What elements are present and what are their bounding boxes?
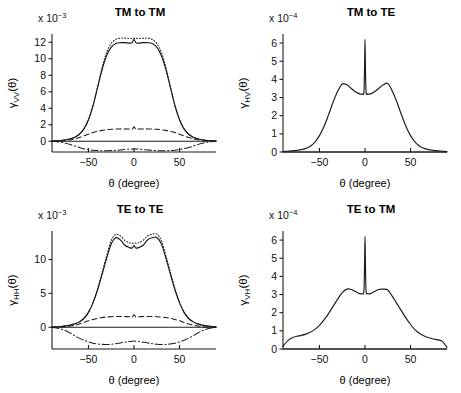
y-axis-title: γHV(θ) <box>237 77 252 108</box>
y-tick-label: 4 <box>271 270 277 282</box>
y-axis-exponent: x 10−4 <box>269 208 297 221</box>
y-tick-label: 0 <box>271 343 277 355</box>
x-tick-label: 50 <box>174 353 186 365</box>
y-axis-exponent: x 10−3 <box>38 11 66 24</box>
curve-total <box>52 237 216 327</box>
y-tick-label: 10 <box>34 52 46 64</box>
y-tick-label: 3 <box>271 288 277 300</box>
y-tick-label: 2 <box>40 118 46 130</box>
x-tick-label: 50 <box>405 353 417 365</box>
y-tick-label: 0 <box>40 135 46 147</box>
x-tick-label: −50 <box>311 353 329 365</box>
curve-total <box>283 39 447 151</box>
panel-te-to-tm: 0123456−50050TE to TMx 10−4θ (degree)γVH… <box>231 197 461 393</box>
x-tick-label: 0 <box>362 353 368 365</box>
x-axis-title: θ (degree) <box>340 177 391 189</box>
curve-upper-dotted <box>52 234 216 327</box>
y-tick-label: 6 <box>40 85 46 97</box>
x-tick-label: −50 <box>80 156 98 168</box>
x-axis-title: θ (degree) <box>109 374 160 386</box>
curve-total <box>52 39 216 141</box>
x-axis-title: θ (degree) <box>109 177 160 189</box>
x-tick-label: 0 <box>131 353 137 365</box>
x-axis-title: θ (degree) <box>340 374 391 386</box>
y-tick-label: 0 <box>271 146 277 158</box>
y-axis-title: γVV(θ) <box>6 78 21 109</box>
panel-title: TM to TE <box>347 6 396 18</box>
panel-title: TE to TE <box>117 203 164 215</box>
x-tick-label: 0 <box>131 156 137 168</box>
y-tick-label: 2 <box>271 109 277 121</box>
x-tick-label: 50 <box>405 156 417 168</box>
y-tick-label: 6 <box>271 37 277 49</box>
y-tick-label: 6 <box>271 234 277 246</box>
y-axis-title: γVH(θ) <box>237 274 252 305</box>
x-tick-label: 0 <box>362 156 368 168</box>
curve-total <box>283 236 447 347</box>
y-tick-label: 0 <box>40 321 46 333</box>
panel-title: TM to TM <box>115 6 165 18</box>
y-tick-label: 2 <box>271 306 277 318</box>
curve-upper-dotted <box>52 38 216 141</box>
y-axis-title: γHH(θ) <box>6 274 21 306</box>
y-tick-label: 12 <box>34 36 46 48</box>
panel-tm-to-tm: 024681012−50050TM to TMx 10−3θ (degree)γ… <box>0 0 230 196</box>
x-tick-label: 50 <box>174 156 186 168</box>
y-axis-exponent: x 10−4 <box>269 11 297 24</box>
y-tick-label: 1 <box>271 127 277 139</box>
y-tick-label: 3 <box>271 91 277 103</box>
x-tick-label: −50 <box>80 353 98 365</box>
plot-tm-to-te: 0123456−50050TM to TEx 10−4θ (degree)γHV… <box>231 0 461 196</box>
y-tick-label: 1 <box>271 324 277 336</box>
plot-tm-to-tm: 024681012−50050TM to TMx 10−3θ (degree)γ… <box>0 0 230 196</box>
figure-four-panel-scattering: 024681012−50050TM to TMx 10−3θ (degree)γ… <box>0 0 461 393</box>
curve-dashed-component <box>52 127 216 141</box>
curve-dashdot-component <box>52 141 216 151</box>
y-axis-exponent: x 10−3 <box>38 208 66 221</box>
y-tick-label: 4 <box>40 102 46 114</box>
plot-te-to-tm: 0123456−50050TE to TMx 10−4θ (degree)γVH… <box>231 197 461 393</box>
y-tick-label: 8 <box>40 69 46 81</box>
x-tick-label: −50 <box>311 156 329 168</box>
y-tick-label: 4 <box>271 73 277 85</box>
y-tick-label: 5 <box>271 55 277 67</box>
y-tick-label: 5 <box>40 287 46 299</box>
panel-title: TE to TM <box>347 203 396 215</box>
plot-te-to-te: 0510−50050TE to TEx 10−3θ (degree)γHH(θ) <box>0 197 230 393</box>
curve-dashdot-component <box>52 327 216 344</box>
y-tick-label: 5 <box>271 252 277 264</box>
panel-tm-to-te: 0123456−50050TM to TEx 10−4θ (degree)γHV… <box>231 0 461 196</box>
y-tick-label: 10 <box>34 253 46 265</box>
panel-te-to-te: 0510−50050TE to TEx 10−3θ (degree)γHH(θ) <box>0 197 230 393</box>
